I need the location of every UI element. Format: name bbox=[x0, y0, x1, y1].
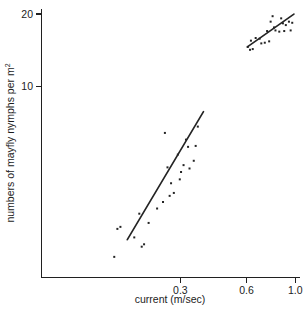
data-point bbox=[173, 192, 175, 194]
y-axis-label-text: numbers of mayfly nymphs per m bbox=[4, 67, 16, 222]
data-point bbox=[252, 48, 254, 50]
data-point bbox=[156, 208, 158, 210]
data-point bbox=[170, 182, 172, 184]
svg-text:numbers of mayfly nymphs per m: numbers of mayfly nymphs per m2 bbox=[4, 63, 16, 222]
data-point bbox=[274, 29, 276, 31]
data-point bbox=[183, 164, 185, 166]
data-point bbox=[195, 145, 197, 147]
data-point bbox=[255, 37, 257, 39]
data-point bbox=[113, 256, 115, 258]
data-point bbox=[285, 24, 287, 26]
plot-axes bbox=[41, 9, 300, 278]
y-tick-label: 10 bbox=[21, 80, 33, 92]
scatter-plot-svg: 1020 0.30.61.0 current (m/sec) numbers o… bbox=[0, 0, 306, 312]
y-tick-label: 20 bbox=[21, 8, 33, 20]
data-point bbox=[133, 236, 135, 238]
data-point bbox=[249, 49, 251, 51]
y-axis-label: numbers of mayfly nymphs per m2 bbox=[4, 63, 16, 222]
data-point bbox=[193, 160, 195, 162]
data-point bbox=[288, 21, 290, 23]
x-tick-label: 1.0 bbox=[288, 284, 303, 296]
data-point bbox=[280, 17, 282, 19]
data-layer bbox=[113, 14, 294, 258]
data-point bbox=[187, 146, 189, 148]
data-point bbox=[148, 222, 150, 224]
data-point bbox=[264, 42, 266, 44]
x-tick-label: 0.6 bbox=[239, 284, 254, 296]
y-axis-label-exponent: 2 bbox=[4, 63, 11, 67]
data-point bbox=[197, 126, 199, 128]
data-point bbox=[290, 29, 292, 31]
data-point bbox=[162, 201, 164, 203]
data-point bbox=[180, 171, 182, 173]
y-axis-ticks: 1020 bbox=[21, 8, 41, 92]
regression-line bbox=[127, 112, 203, 240]
data-point bbox=[141, 246, 143, 248]
data-point bbox=[169, 195, 171, 197]
data-point bbox=[138, 213, 140, 215]
data-point bbox=[283, 30, 285, 32]
data-point bbox=[278, 31, 280, 33]
data-point bbox=[164, 132, 166, 134]
data-point bbox=[116, 228, 118, 230]
data-point bbox=[270, 21, 272, 23]
data-point bbox=[272, 15, 274, 17]
data-point bbox=[119, 226, 121, 228]
data-point bbox=[179, 178, 181, 180]
data-point bbox=[260, 42, 262, 44]
data-point bbox=[291, 22, 293, 24]
chart-figure: 1020 0.30.61.0 current (m/sec) numbers o… bbox=[0, 0, 306, 312]
series-group bbox=[247, 14, 294, 51]
data-point bbox=[166, 166, 168, 168]
x-axis-label: current (m/sec) bbox=[135, 293, 206, 305]
regression-line bbox=[247, 14, 294, 47]
data-point bbox=[268, 40, 270, 42]
data-point bbox=[143, 243, 145, 245]
data-point bbox=[189, 168, 191, 170]
data-point bbox=[250, 40, 252, 42]
series-group bbox=[113, 112, 203, 258]
